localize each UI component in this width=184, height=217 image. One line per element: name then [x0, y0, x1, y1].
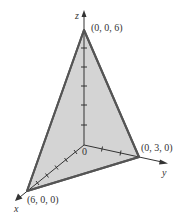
plane-triangle: [27, 30, 139, 191]
origin-label: 0: [82, 146, 87, 157]
x-axis-label: x: [13, 203, 19, 214]
y-axis-label: y: [161, 167, 167, 178]
diagram-canvas: z y x 0 (0, 0, 6) (0, 3, 0) (6, 0, 0): [0, 0, 184, 217]
vertex-label-y: (0, 3, 0): [141, 142, 173, 154]
z-arrow-icon: [82, 10, 87, 17]
vertex-label-x: (6, 0, 0): [27, 194, 59, 206]
vertex-label-z: (0, 0, 6): [91, 22, 123, 34]
y-arrow-icon: [159, 160, 168, 165]
z-axis-label: z: [74, 10, 79, 21]
x-arrow-icon: [15, 194, 23, 202]
